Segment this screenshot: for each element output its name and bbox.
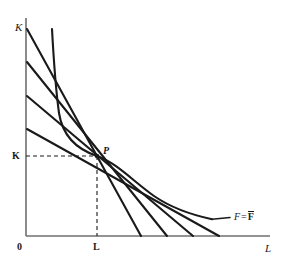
isocost-line-4 — [27, 129, 219, 236]
tangency-point-label: P — [103, 146, 109, 156]
isoquant-label-equals: = — [240, 211, 248, 222]
isoquant-label-leader — [212, 218, 230, 220]
x-tick-label-l: L — [93, 242, 100, 252]
isoquant-isocost-figure: K L 0 K L P F=F — [0, 0, 282, 278]
isoquant-label-fbar: F — [248, 211, 254, 222]
isoquant-curve-label: F=F — [234, 211, 254, 222]
tangency-point-marker — [95, 154, 100, 159]
isocost-line-2 — [27, 62, 167, 236]
x-axis-label: L — [265, 243, 271, 254]
plot-canvas — [0, 0, 282, 278]
isocost-line-3 — [27, 96, 193, 236]
y-tick-label-k: K — [12, 151, 20, 161]
y-axis-label: K — [15, 22, 22, 33]
origin-label: 0 — [17, 242, 22, 252]
